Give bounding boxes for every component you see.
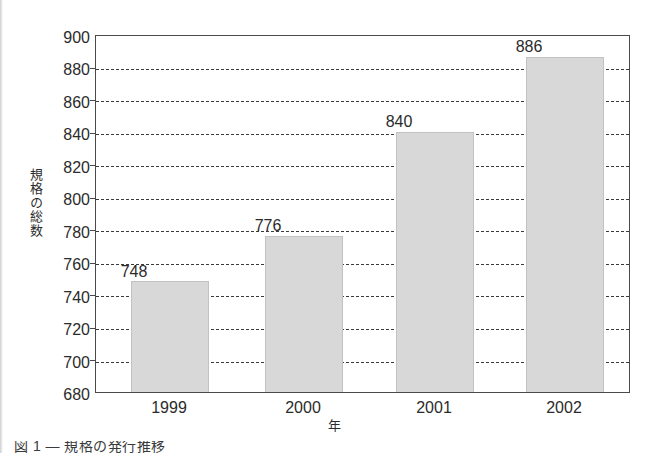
value-label-2000: 776 (208, 217, 328, 234)
bar-1999 (131, 281, 209, 392)
y-tick-label-780: 780 (30, 225, 90, 241)
y-tick-label-900: 900 (30, 30, 90, 46)
y-tick-label-840: 840 (30, 127, 90, 143)
value-label-1999: 748 (74, 263, 194, 280)
y-tick-label-680: 680 (30, 387, 90, 403)
y-tick-label-700: 700 (30, 355, 90, 371)
plot-area (95, 35, 630, 393)
y-tick-label-740: 740 (30, 290, 90, 306)
y-tick-label-720: 720 (30, 322, 90, 338)
value-label-2002: 886 (469, 38, 589, 55)
bar-chart-figure: 規格の総数 900 880 860 840 820 800 780 760 74… (0, 0, 668, 453)
bar-2000 (265, 236, 343, 392)
y-tick-label-820: 820 (30, 160, 90, 176)
y-tick-label-860: 860 (30, 95, 90, 111)
x-axis-title: 年 (0, 418, 668, 433)
bar-2001 (396, 132, 474, 392)
x-tick-label-2001: 2001 (374, 399, 494, 417)
figure-caption-text: 図 1 — 規格の発行推移 (14, 441, 166, 453)
x-tick-label-1999: 1999 (109, 399, 229, 417)
value-label-2001: 840 (339, 113, 459, 130)
figure-caption: 図 1 — 規格の発行推移 (0, 441, 668, 453)
bar-2002 (526, 57, 604, 392)
x-tick-label-2002: 2002 (504, 399, 624, 417)
bars-layer (96, 36, 629, 392)
y-tick-label-880: 880 (30, 62, 90, 78)
y-tick-label-800: 800 (30, 192, 90, 208)
x-tick-label-2000: 2000 (243, 399, 363, 417)
